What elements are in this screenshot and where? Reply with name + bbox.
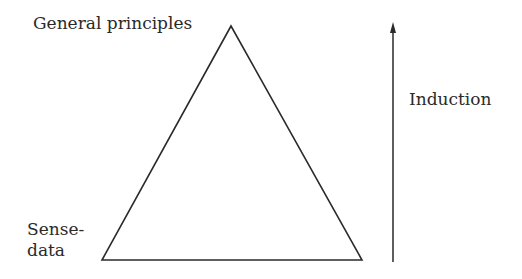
- induction-label: Induction: [409, 89, 491, 109]
- sense-data-label-line1: Sense-: [27, 219, 87, 240]
- diagram-canvas: General principles Sense- data Induction: [0, 0, 522, 279]
- sense-data-label: Sense- data: [27, 219, 87, 261]
- arrow-up-icon: [390, 22, 396, 33]
- general-principles-label: General principles: [33, 13, 192, 33]
- sense-data-label-line2: data: [27, 240, 87, 261]
- triangle-shape: [102, 26, 362, 260]
